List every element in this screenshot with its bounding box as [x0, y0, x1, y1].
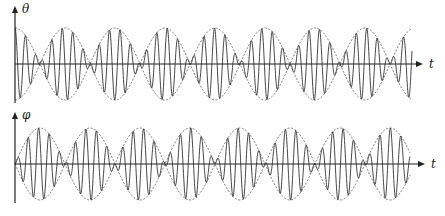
- phi-panel: [12, 112, 425, 203]
- y-axis-arrow-icon: [12, 6, 18, 13]
- phi-axis-label: φ: [22, 108, 30, 122]
- theta-time-label: t: [429, 57, 434, 71]
- beat-diagram: [0, 0, 445, 216]
- t-axis-arrow-icon: [416, 61, 423, 67]
- phi-time-label: t: [431, 157, 436, 171]
- theta-panel: [12, 6, 423, 103]
- theta-axis-label: θ: [22, 2, 29, 16]
- y-axis-arrow-icon: [12, 112, 18, 119]
- t-axis-arrow-icon: [418, 161, 425, 167]
